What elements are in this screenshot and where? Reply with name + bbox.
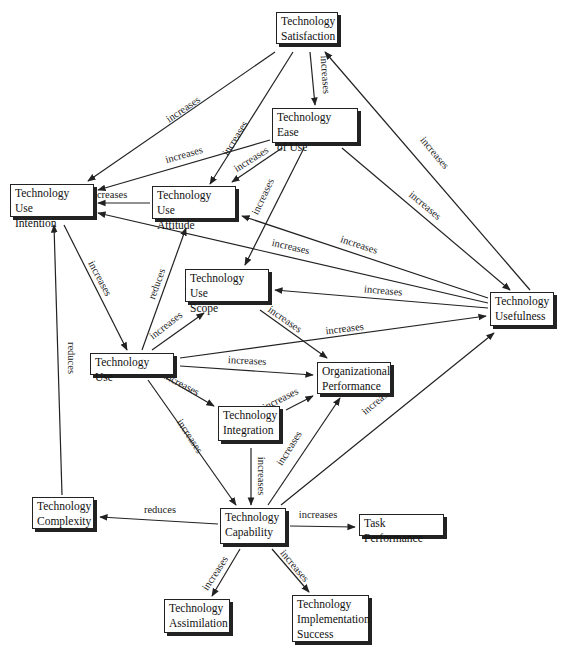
edge-label: increases [299, 509, 337, 520]
edge-integration-to-capability: increases [251, 448, 267, 505]
edge-label: increases [271, 237, 311, 256]
node-satisfaction: Technology Satisfaction [276, 12, 338, 44]
edge-label: reduces [146, 267, 167, 301]
edge-label: reduces [66, 342, 77, 374]
arrow-icon [100, 517, 218, 524]
arrow-icon [64, 225, 127, 350]
node-usefulness: Technology Usefulness [490, 292, 554, 326]
node-assimilation: Technology Assimilation [164, 599, 230, 633]
arrow-icon [281, 333, 494, 505]
edge-use-attitude-to-use-intention: increases [89, 189, 150, 203]
node-capability: Technology Capability [220, 508, 286, 544]
arrow-icon [180, 316, 486, 358]
edge-label: increases [164, 94, 202, 125]
arrow-icon [290, 526, 355, 527]
edge-capability-to-assimilation: increases [200, 549, 240, 596]
edge-capability-to-impl-success: increases [272, 547, 311, 592]
edges-layer: increasesincreasesincreasesincreasesincr… [0, 0, 563, 657]
node-use-attitude: Technology Use Attitude [152, 186, 236, 219]
edge-label: increases [278, 547, 311, 584]
edge-label: increases [147, 309, 184, 341]
edge-label: increases [256, 457, 267, 495]
edge-use-scope-to-org-performance: increases [260, 304, 327, 358]
edge-capability-to-usefulness: increases [281, 333, 494, 505]
node-integration: Technology Integration [218, 406, 280, 441]
edge-tech-use-to-org-performance: increases [180, 354, 313, 375]
node-use-intention: Technology Use Intention [10, 184, 94, 217]
edge-satisfaction-to-ease-of-use: increases [310, 52, 332, 105]
node-complexity: Technology Complexity [32, 497, 94, 529]
edge-capability-to-task-performance: increases [290, 509, 355, 527]
arrow-icon [180, 366, 313, 375]
edge-label: increases [220, 119, 250, 157]
edge-label: increases [175, 417, 205, 455]
node-tech-use: Technology Use [90, 353, 174, 375]
node-impl-success: Technology Implementation Success [292, 595, 369, 642]
node-ease-of-use: Technology Ease of Use [272, 108, 358, 143]
edge-label: increases [407, 189, 444, 222]
edge-tech-use-to-capability: increases [148, 380, 236, 505]
edge-label: increases [89, 189, 127, 200]
arrow-icon [54, 225, 62, 495]
edge-ease-of-use-to-use-attitude: increases [232, 144, 282, 182]
edge-tech-use-to-usefulness: increases [180, 316, 486, 358]
arrow-icon [310, 52, 315, 105]
edge-complexity-to-use-intention: reduces [54, 225, 77, 495]
edge-label: increases [228, 354, 267, 367]
concept-map-canvas: increasesincreasesincreasesincreasesincr… [0, 0, 563, 657]
edge-use-intention-to-tech-use: increases [64, 225, 127, 350]
edge-label: reduces [144, 504, 176, 515]
edge-label: increases [364, 283, 403, 297]
node-org-performance: Organizational Performance [317, 362, 391, 394]
node-task-performance: Task Performance [359, 514, 444, 536]
edge-tech-use-to-integration: increases [162, 370, 214, 406]
edge-label: increases [319, 55, 333, 94]
node-use-scope: Technology Use Scope [185, 269, 269, 302]
edge-label: increases [339, 233, 379, 255]
edge-label: increases [164, 144, 204, 165]
edge-capability-to-complexity: reduces [100, 504, 218, 524]
